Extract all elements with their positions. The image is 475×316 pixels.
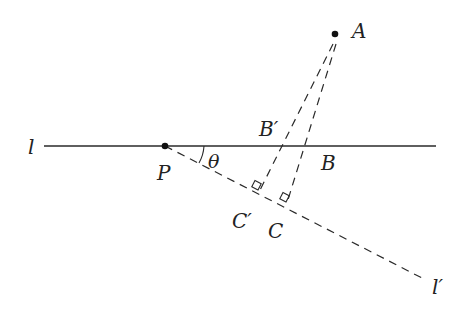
label-l: l [28, 135, 34, 159]
label-p: P [156, 161, 171, 185]
label-c-prime: C′ [232, 209, 252, 233]
label-b-prime: B′ [258, 117, 279, 141]
label-c: C [268, 219, 283, 243]
diagram-canvas: l l′ P A B B′ C C′ θ [0, 0, 475, 316]
geometry-diagram: l l′ P A B B′ C C′ θ [0, 0, 475, 316]
point-a [332, 31, 339, 38]
line-l-prime [165, 146, 422, 278]
right-angle-mark-c-prime [252, 181, 261, 190]
label-l-prime: l′ [432, 275, 443, 299]
label-a: A [350, 19, 366, 43]
label-b: B [320, 151, 336, 175]
angle-theta-arc [199, 146, 204, 163]
point-p [162, 143, 169, 150]
segment-a-c [287, 44, 336, 203]
right-angle-mark-c [280, 193, 289, 202]
label-theta: θ [208, 150, 220, 172]
